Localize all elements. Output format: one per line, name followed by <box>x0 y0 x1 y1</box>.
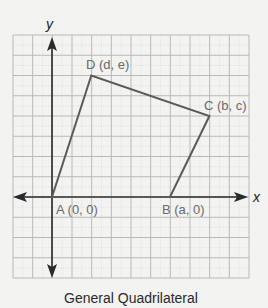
figure-caption: General Quadrilateral <box>64 290 198 306</box>
y-axis-label: y <box>45 16 54 32</box>
vertex-label-a: A (0, 0) <box>56 202 98 217</box>
vertex-label-c: C (b, c) <box>204 98 247 113</box>
vertex-label-b: B (a, 0) <box>162 202 205 217</box>
x-axis-label: x <box>252 189 261 205</box>
grid-major-lines <box>13 35 249 278</box>
vertex-label-d: D (d, e) <box>86 57 129 72</box>
quadrilateral-diagram: x y A (0, 0) B (a, 0) C (b, c) D (d, e) … <box>0 0 268 308</box>
